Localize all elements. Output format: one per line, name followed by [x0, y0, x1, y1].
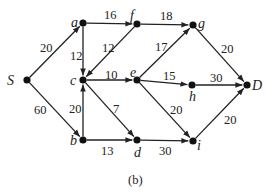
figure-caption: (b)	[128, 173, 143, 187]
node-S	[23, 76, 30, 83]
edge-weight-c-e: 10	[105, 68, 118, 82]
edge-weight-e-h: 15	[163, 69, 176, 83]
node-i	[189, 137, 196, 144]
node-label-i: i	[197, 138, 201, 153]
edge-weight-a-f: 16	[104, 8, 117, 22]
node-label-D: D	[251, 78, 262, 93]
edge-weight-d-i: 30	[159, 144, 172, 158]
edge-c-d	[85, 83, 134, 137]
edge-d-i	[141, 140, 189, 141]
node-c	[79, 76, 86, 83]
node-label-h: h	[189, 89, 196, 104]
node-a	[79, 19, 86, 26]
edge-weight-c-d: 7	[113, 102, 119, 116]
edge-weight-h-D: 30	[210, 71, 223, 85]
node-label-a: a	[71, 15, 78, 30]
node-label-S: S	[7, 73, 14, 88]
node-label-c: c	[70, 73, 77, 88]
node-label-e: e	[130, 65, 136, 80]
node-label-d: d	[134, 145, 142, 160]
directed-graph: 206016121218102071317152020303020 Safgce…	[0, 0, 273, 192]
edge-weight-g-D: 20	[221, 42, 234, 56]
node-label-f: f	[130, 8, 136, 23]
edge-f-g	[141, 24, 189, 25]
edge-weight-f-c: 12	[102, 41, 115, 55]
edge-weight-b-d: 13	[101, 144, 114, 158]
edge-weight-e-g: 17	[155, 40, 168, 54]
node-label-g: g	[198, 16, 205, 31]
edge-weight-f-g: 18	[160, 9, 173, 23]
edge-weight-b-c: 20	[69, 102, 82, 116]
node-g	[189, 21, 196, 28]
edge-weight-S-a: 20	[40, 41, 53, 55]
node-f	[133, 20, 140, 27]
node-b	[79, 136, 86, 143]
node-h	[188, 81, 195, 88]
edge-weight-e-i: 20	[170, 103, 183, 117]
edge-weight-i-D: 20	[224, 113, 237, 127]
node-D	[243, 81, 250, 88]
edge-a-f	[87, 23, 133, 24]
edge-weight-S-b: 60	[34, 103, 47, 117]
labels-layer: SafgcehDbdi	[7, 8, 262, 160]
edge-weight-a-c: 12	[70, 49, 83, 63]
node-d	[133, 136, 140, 143]
edge-i-D	[195, 88, 243, 138]
node-label-b: b	[70, 133, 77, 148]
